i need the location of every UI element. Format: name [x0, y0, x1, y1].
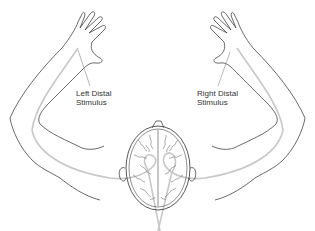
right-distal-stimulus-label: Right Distal Stimulus [197, 89, 238, 107]
left-arm-outline [10, 12, 105, 149]
right-arm-outline [211, 12, 305, 149]
left-distal-stimulus-label: Left Distal Stimulus [76, 89, 112, 107]
left-label-line2: Stimulus [76, 98, 112, 107]
diagram-canvas: Left Distal Stimulus Right Distal Stimul… [0, 0, 315, 231]
body-illustration [0, 0, 315, 231]
left-label-pointer [78, 50, 90, 86]
right-label-line2: Stimulus [197, 98, 238, 107]
right-stimulus-pathway [158, 48, 283, 231]
right-label-line1: Right Distal [197, 89, 238, 98]
right-label-pointer [218, 52, 230, 86]
nose [152, 121, 164, 128]
left-label-line1: Left Distal [76, 89, 112, 98]
